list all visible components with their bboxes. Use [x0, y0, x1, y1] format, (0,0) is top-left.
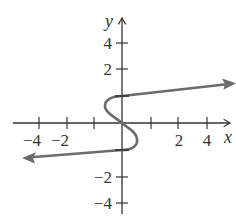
- y-axis: 4 2 −2 −4 y: [94, 11, 128, 214]
- curve: [22, 79, 236, 164]
- x-tick-label-2: 2: [175, 131, 184, 150]
- y-tick-label-4: 4: [104, 34, 113, 53]
- y-tick-label-2: 2: [104, 60, 113, 79]
- x-tick-label-neg2: −2: [51, 131, 69, 150]
- x-axis-label: x: [223, 127, 232, 147]
- x-tick-label-neg4: −4: [23, 131, 42, 150]
- function-graph: −4 −2 2 4 x 4 2 −2 −4 y: [0, 0, 236, 216]
- y-tick-label-neg4: −4: [94, 194, 113, 213]
- y-axis-label: y: [103, 11, 113, 31]
- x-tick-label-4: 4: [203, 131, 212, 150]
- y-tick-label-neg2: −2: [94, 168, 112, 187]
